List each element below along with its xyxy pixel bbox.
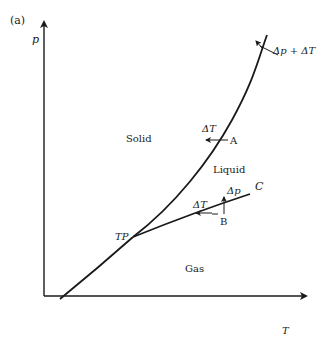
triple-point-label: TP (115, 232, 128, 242)
top-right-annotation: Δp + ΔT (273, 46, 315, 56)
panel-label: (a) (10, 15, 25, 26)
point-b-label: B (220, 217, 227, 227)
top-right-arrow (256, 41, 262, 48)
point-a-delta-t: ΔT (202, 124, 216, 134)
point-b-delta-t: ΔT (193, 200, 207, 210)
region-gas-label: Gas (185, 264, 204, 274)
x-axis-label: T (282, 326, 289, 336)
region-solid-label: Solid (126, 134, 152, 144)
y-axis-label: p (32, 34, 39, 45)
point-a-label: A (230, 136, 237, 146)
sublimation-curve (60, 237, 133, 299)
vaporization-curve (133, 194, 250, 237)
point-b-delta-p: Δp (227, 186, 241, 196)
region-liquid-label: Liquid (213, 165, 245, 175)
critical-point-label: C (255, 181, 263, 192)
